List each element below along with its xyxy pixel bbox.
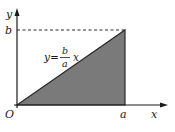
b-tick-label: b [5, 24, 12, 37]
x-axis-label: x [151, 108, 158, 121]
a-tick-label: a [120, 108, 127, 121]
diagram-canvas: y b O a x y= b a x [0, 0, 175, 132]
origin-label: O [5, 108, 14, 121]
y-axis-label: y [5, 8, 13, 21]
x-axis-arrow-icon [160, 103, 168, 108]
equation-numerator: b [62, 45, 68, 56]
equation-lhs: y= [43, 51, 59, 63]
equation-variable: x [73, 51, 79, 63]
equation-denominator: a [62, 58, 68, 69]
y-axis-arrow-icon [15, 8, 20, 16]
shaded-triangle [17, 30, 125, 105]
